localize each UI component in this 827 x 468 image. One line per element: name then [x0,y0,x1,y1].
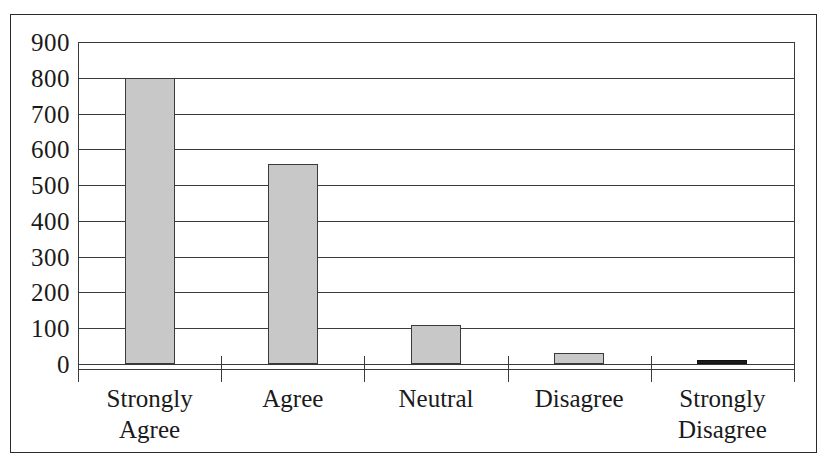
y-axis-tick-label: 100 [31,316,70,341]
bar-agree[interactable] [268,164,318,364]
y-axis-tick-label: 800 [31,65,70,90]
y-axis-tick-label: 700 [31,101,70,126]
y-axis-tick-labels: 9008007006005004003002001000 [0,42,70,364]
x-axis-tick [221,356,222,382]
plot-right-spine [794,42,795,364]
y-axis-tick-label: 400 [31,208,70,233]
x-axis-label-line1: Strongly [679,385,765,412]
x-axis-label-line1: Neutral [399,385,474,412]
x-axis-label-disagree: Disagree [535,383,624,414]
x-axis-label-agree: Agree [262,383,323,414]
bar-strongly-agree[interactable] [125,78,175,364]
x-axis-tick [508,356,509,382]
x-axis-tick [651,356,652,382]
x-axis-tick [794,356,795,382]
x-axis-label-line1: Disagree [535,385,624,412]
x-axis-tick [364,356,365,382]
y-axis-tick-label: 900 [31,30,70,55]
y-axis-tick-label: 0 [57,352,70,377]
x-axis-label-strongly-agree: StronglyAgree [107,383,193,445]
y-axis-tick-label: 600 [31,137,70,162]
y-axis-tick-label: 200 [31,280,70,305]
x-axis-category-labels: StronglyAgreeAgreeNeutralDisagreeStrongl… [78,383,794,453]
x-axis-label-line2: Disagree [678,414,767,445]
y-axis-tick-label: 300 [31,244,70,269]
x-axis-label-line2: Agree [107,414,193,445]
x-axis-label-neutral: Neutral [399,383,474,414]
bars-layer [78,42,794,364]
x-axis-label-line1: Strongly [107,385,193,412]
x-axis-label-line1: Agree [262,385,323,412]
bar-chart-figure: 9008007006005004003002001000 StronglyAgr… [0,0,827,468]
x-axis-label-strongly-disagree: StronglyDisagree [678,383,767,445]
y-axis-tick-label: 500 [31,173,70,198]
x-axis-ticks [78,356,794,382]
